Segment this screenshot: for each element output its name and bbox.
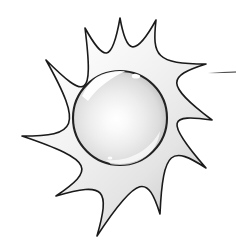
sun-illustration xyxy=(0,0,236,249)
clipped-ray-line-icon xyxy=(208,72,236,73)
image-canvas: Sun stylized sun starburst with glossy i… xyxy=(0,0,236,249)
specular-dot-small-icon xyxy=(108,156,113,159)
inner-disc-fill xyxy=(73,71,167,165)
